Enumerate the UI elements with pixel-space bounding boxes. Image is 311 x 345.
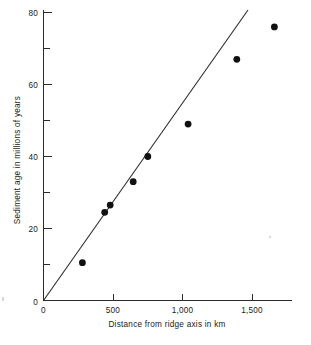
data-point: [79, 259, 86, 266]
x-axis-title: Distance from ridge axis in km: [108, 320, 225, 329]
data-point: [130, 178, 137, 185]
data-point-group: [79, 24, 278, 267]
scatter-plot-figure: 80 60 40 20 0 0 500 1,000 1,500 Distance…: [0, 0, 311, 345]
print-speck-left: [2, 297, 4, 301]
data-point: [144, 153, 151, 160]
y-tick-label-80: 80: [28, 9, 38, 18]
y-tick-label-0: 0: [33, 298, 38, 307]
data-point: [101, 209, 108, 216]
x-tick-label-0: 0: [41, 306, 46, 315]
y-tick-label-60: 60: [28, 81, 38, 90]
plot-canvas: 80 60 40 20 0 0 500 1,000 1,500 Distance…: [0, 0, 311, 345]
y-tick-label-40: 40: [28, 153, 38, 162]
print-speck-right: [269, 236, 271, 238]
y-axis-title: Sediment age in millions of years: [13, 96, 22, 224]
data-point: [185, 121, 192, 128]
data-point: [233, 56, 240, 63]
y-tick-label-20: 20: [28, 225, 38, 234]
data-point: [271, 24, 278, 31]
data-point: [107, 202, 114, 209]
x-tick-label-1000: 1,000: [172, 306, 194, 315]
x-tick-label-1500: 1,500: [241, 306, 263, 315]
x-tick-label-500: 500: [106, 306, 121, 315]
